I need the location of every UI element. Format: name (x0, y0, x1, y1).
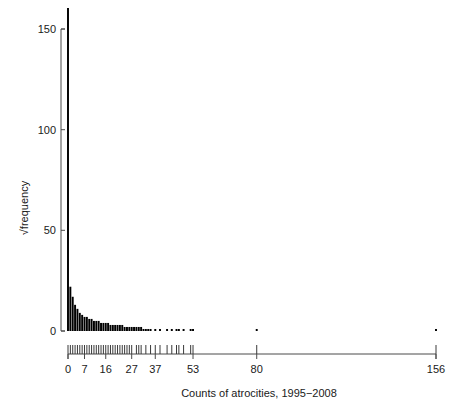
histogram-bar (74, 305, 76, 331)
x-axis-tick-label: 53 (187, 363, 199, 375)
y-tick-label-0: 0 (50, 325, 56, 337)
histogram-bar (105, 323, 107, 331)
histogram-bar (190, 329, 192, 331)
histogram-bar (128, 327, 130, 331)
x-axis-tick-label: 7 (81, 363, 87, 375)
histogram-bar (88, 319, 90, 331)
histogram-bar (84, 317, 86, 331)
histogram-bar (126, 327, 128, 331)
histogram-bar (143, 329, 145, 331)
histogram-bar (109, 325, 111, 331)
histogram-bar (256, 329, 258, 331)
histogram-bar (138, 327, 140, 331)
histogram-bar (135, 327, 137, 331)
y-axis-line (61, 29, 65, 331)
histogram-bar (147, 329, 149, 331)
histogram-bar (67, 8, 69, 331)
x-axis-tick-label: 27 (126, 363, 138, 375)
histogram-bar (133, 327, 135, 331)
histogram-bar (81, 315, 83, 331)
x-axis-tick-label: 80 (251, 363, 263, 375)
histogram-bar (121, 325, 123, 331)
rug-axis-line (68, 354, 436, 359)
y-tick-label-100: 100 (38, 124, 56, 136)
histogram-bar (114, 325, 116, 331)
histogram-bar (119, 325, 121, 331)
histogram-bars (67, 8, 437, 331)
histogram-bar (150, 329, 152, 331)
histogram-bar (124, 327, 126, 331)
histogram-bar (159, 329, 161, 331)
histogram-bar (171, 329, 173, 331)
histogram-bar (154, 329, 156, 331)
histogram-bar (435, 329, 437, 331)
y-tick-label-50: 50 (44, 224, 56, 236)
histogram-bar (69, 287, 71, 331)
histogram-bar (131, 327, 133, 331)
x-axis-tick-label: 0 (65, 363, 71, 375)
x-axis-tick-label: 37 (149, 363, 161, 375)
histogram-bar (79, 313, 81, 331)
histogram-bar (91, 319, 93, 331)
rug-axis (68, 345, 436, 359)
histogram-bar (98, 321, 100, 331)
x-axis-tick-labels: 071627375380156 (65, 354, 445, 375)
x-axis-tick-label: 156 (427, 363, 445, 375)
histogram-chart: 150 100 50 0 √frequency 071627375380156 … (0, 0, 461, 407)
histogram-bar (95, 321, 97, 331)
histogram-bar (107, 323, 109, 331)
y-axis-title: √frequency (18, 180, 30, 235)
x-axis-title: Counts of atrocities, 1995−2008 (181, 387, 337, 399)
histogram-bar (76, 309, 78, 331)
histogram-bar (117, 325, 119, 331)
histogram-bar (102, 323, 104, 331)
histogram-bar (72, 297, 74, 331)
histogram-bar (145, 329, 147, 331)
histogram-bar (183, 329, 185, 331)
histogram-bar (112, 325, 114, 331)
histogram-bar (100, 323, 102, 331)
histogram-bar (166, 329, 168, 331)
y-axis: 150 100 50 0 (38, 23, 65, 337)
histogram-bar (140, 327, 142, 331)
histogram-bar (86, 317, 88, 331)
y-tick-label-150: 150 (38, 23, 56, 35)
histogram-bar (176, 329, 178, 331)
histogram-bar (178, 329, 180, 331)
histogram-bar (93, 321, 95, 331)
histogram-bar (192, 329, 194, 331)
x-axis-tick-label: 16 (100, 363, 112, 375)
